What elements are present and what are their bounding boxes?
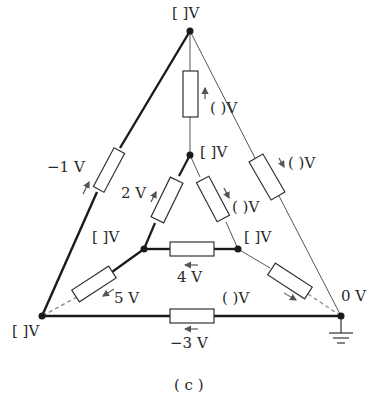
label-resistor-top-vertical: ( )V — [210, 101, 237, 116]
label-resistor-center-left: 2 V — [121, 186, 146, 201]
label-resistor-inner-horizontal: 4 V — [177, 270, 202, 285]
arrow-center-left — [151, 192, 156, 202]
arrow-inner-to-bottom-right — [284, 293, 296, 300]
resistor-right-outer — [249, 154, 285, 200]
label-node-center: [ ]V — [200, 145, 227, 160]
resistor-inner-horizontal — [170, 242, 214, 256]
node-bottom-left — [39, 313, 46, 320]
label-node-top: [ ]V — [172, 6, 199, 21]
node-center — [187, 152, 194, 159]
resistor-center-left — [151, 177, 183, 223]
resistor-inner-to-bottom-right — [268, 263, 313, 299]
ground-icon — [329, 316, 353, 343]
resistor-bottom — [170, 309, 214, 323]
label-node-bottom-left: [ ]V — [12, 324, 39, 339]
resistor-left-outer — [93, 148, 124, 192]
label-resistor-center-right: ( )V — [232, 200, 259, 215]
label-node-inner-right: [ ]V — [244, 230, 271, 245]
label-resistor-inner-to-bottom-right: ( )V — [222, 291, 249, 306]
arrow-left-outer — [83, 182, 89, 194]
label-resistor-bottom: −3 V — [170, 336, 208, 351]
label-resistor-left-outer: −1 V — [47, 160, 85, 175]
node-inner-right — [235, 246, 242, 253]
arrow-center-right — [224, 188, 229, 198]
resistor-center-right — [196, 176, 229, 221]
label-node-inner-left: [ ]V — [92, 230, 119, 245]
node-inner-left — [141, 246, 148, 253]
label-resistor-inner-to-bottom-left: 5 V — [114, 291, 139, 306]
figure-caption: ( c ) — [174, 376, 204, 394]
label-resistor-right-outer: ( )V — [288, 156, 315, 171]
resistor-inner-to-bottom-left — [72, 266, 117, 302]
node-top — [187, 28, 194, 35]
arrow-right-outer — [279, 158, 284, 167]
resistor-top-vertical — [183, 71, 198, 117]
label-node-bottom-right: 0 V — [341, 289, 366, 304]
arrow-inner-to-bottom-left — [103, 289, 114, 296]
node-bottom-right — [338, 313, 345, 320]
circuit-diagram — [0, 0, 386, 416]
